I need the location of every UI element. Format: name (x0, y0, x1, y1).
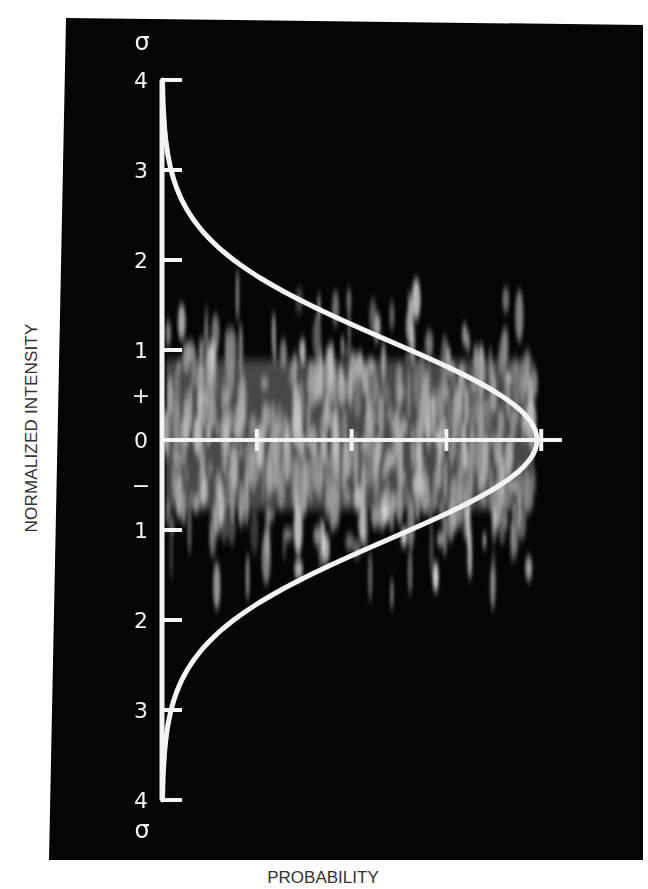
svg-text:2: 2 (134, 248, 148, 273)
svg-text:−: − (132, 473, 150, 498)
y-axis-label: NORMALIZED INTENSITY (22, 324, 42, 533)
svg-text:1: 1 (134, 338, 148, 363)
svg-text:2: 2 (134, 608, 148, 633)
svg-text:σ: σ (134, 28, 149, 56)
chart-plot: 432101234σσ+− (0, 0, 648, 889)
chart-figure: 432101234σσ+− NORMALIZED INTENSITY PROBA… (0, 0, 648, 889)
svg-text:3: 3 (134, 698, 148, 723)
svg-text:σ: σ (134, 816, 149, 844)
svg-text:4: 4 (134, 68, 148, 93)
svg-text:3: 3 (134, 158, 148, 183)
svg-text:0: 0 (134, 428, 148, 453)
svg-text:4: 4 (134, 788, 148, 813)
svg-text:1: 1 (134, 518, 148, 543)
x-axis-label: PROBABILITY (267, 868, 378, 888)
svg-text:+: + (132, 383, 150, 408)
